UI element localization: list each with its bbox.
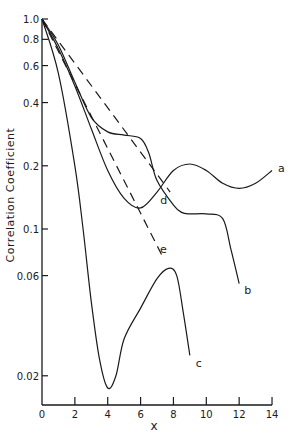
y-tick-label: 1.0 — [23, 14, 39, 25]
x-tick-label: 4 — [105, 409, 111, 420]
x-tick-label: 8 — [170, 409, 176, 420]
x-tick-label: 2 — [72, 409, 78, 420]
curve-c — [42, 19, 190, 389]
x-tick-label: 10 — [200, 409, 213, 420]
y-tick-label: 0.2 — [23, 161, 39, 172]
curve-e — [42, 19, 162, 255]
y-tick-label: 0.8 — [23, 34, 39, 45]
y-tick-label: 0.06 — [17, 271, 39, 282]
y-tick-label: 0.02 — [17, 371, 39, 382]
curve-label-c: c — [196, 357, 202, 370]
y-tick-label: 0.4 — [23, 98, 39, 109]
curve-label-d: d — [160, 194, 167, 207]
plot-area: 1.00.80.60.40.20.10.060.0202468101214 ab… — [0, 0, 288, 436]
axes: 1.00.80.60.40.20.10.060.0202468101214 — [17, 14, 279, 420]
x-tick-label: 14 — [266, 409, 279, 420]
y-axis-label: Correlation Coefficient — [4, 127, 17, 262]
curve-label-e: e — [160, 243, 167, 256]
x-tick-label: 0 — [39, 409, 45, 420]
x-tick-label: 6 — [137, 409, 143, 420]
x-tick-label: 12 — [233, 409, 246, 420]
y-tick-label: 0.6 — [23, 61, 39, 72]
correlation-chart: 1.00.80.60.40.20.10.060.0202468101214 ab… — [0, 0, 288, 436]
curve-label-b: b — [244, 284, 251, 297]
curve-label-a: a — [278, 162, 285, 175]
curve-labels: abcde — [160, 162, 285, 370]
y-tick-label: 0.1 — [23, 224, 39, 235]
curves — [42, 19, 272, 389]
x-axis-label: x — [150, 419, 157, 433]
